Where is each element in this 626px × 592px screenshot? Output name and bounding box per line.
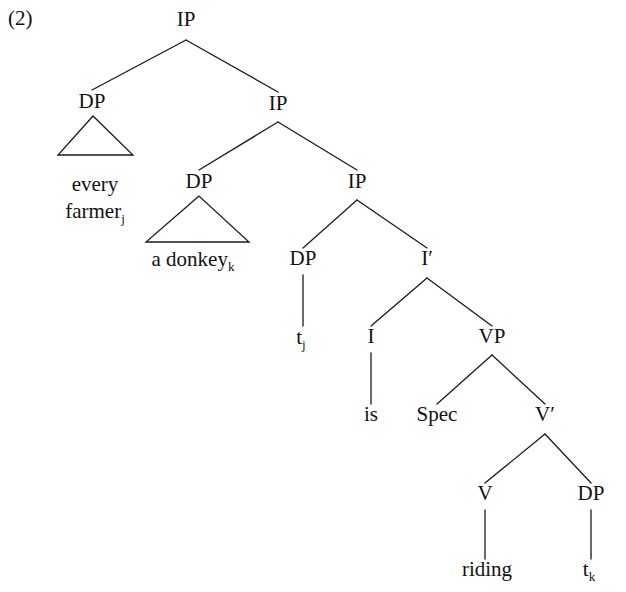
tree-branch [371,278,427,326]
constituent-triangle [146,196,249,242]
tree-node-i: I [368,324,375,348]
tree-node-ibar: I′ [421,246,433,270]
tree-branch [357,200,427,248]
tree-leaf-text: tk [583,557,596,584]
tree-node-ip: IP [269,91,288,115]
tree-node-vbar: V′ [535,402,555,426]
tree-node-spec: Spec [417,402,458,426]
tree-branch [278,122,357,170]
syntax-tree-figure: (2) IPDPIPDPIPDPI′IVPSpecV′VDP everyfarm… [0,0,626,592]
tree-leaf-text: a donkeyk [152,247,235,274]
leaf-index-subscript: k [589,569,596,584]
leaf-index-subscript: k [228,259,235,274]
tree-node-dp: DP [79,89,106,113]
tree-node-v: V [477,481,492,505]
tree-node-dp: DP [186,169,213,193]
tree-leaf-text: farmerj [65,199,125,226]
tree-node-ip: IP [348,169,367,193]
tree-node-dp: DP [578,481,605,505]
tree-branch [92,40,186,90]
leaf-index-subscript: j [120,211,125,226]
tree-branch [199,122,278,170]
tree-leaf-text: tj [296,325,305,352]
tree-diagram-canvas: IPDPIPDPIPDPI′IVPSpecV′VDP everyfarmerja… [0,0,626,592]
leaf-word: is [364,402,378,426]
tree-branch [303,200,357,248]
tree-leaf-text: is [364,402,378,426]
leaf-word: a donkey [152,247,229,271]
tree-node-dp: DP [290,246,317,270]
tree-branch [545,434,591,483]
branch-lines-group [92,40,591,559]
tree-branch [492,355,545,404]
tree-branch [485,434,545,483]
tree-node-vp: VP [479,324,506,348]
tree-leaf-text: riding [462,557,513,581]
constituent-triangle [58,116,133,155]
leaf-index-subscript: j [301,337,306,352]
leaf-word: riding [462,557,513,581]
tree-branch [437,355,492,404]
leaf-word: farmer [65,199,121,223]
tree-branch [427,278,492,326]
tree-branch [186,40,278,92]
tree-node-ip: IP [177,7,196,31]
leaf-word: every [72,172,119,196]
tree-leaf-text: every [72,172,119,196]
